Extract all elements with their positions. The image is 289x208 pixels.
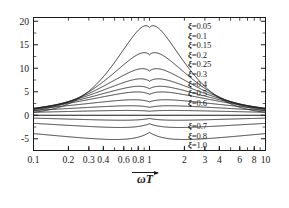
x-tick-label: 2 — [182, 154, 187, 165]
y-tick-label: 15 — [19, 39, 29, 50]
legend-value: =0.8 — [192, 131, 207, 141]
x-tick-label: 6 — [237, 154, 242, 165]
curve-1.0 — [34, 132, 266, 139]
legend-value: =0.15 — [192, 40, 211, 50]
curve-0.05 — [34, 26, 266, 112]
x-tick-label: 0.6 — [118, 154, 130, 165]
legend-value: =1.0 — [192, 140, 207, 150]
legend-lower-item: ξ=1.0 — [188, 141, 207, 151]
y-tick-label: 10 — [19, 63, 29, 74]
y-tick-label: 5 — [24, 86, 29, 97]
legend-value: =0.25 — [192, 59, 211, 69]
x-axis-title: ωT — [105, 172, 185, 187]
curve-0.6 — [34, 110, 266, 112]
curve-0.5 — [34, 106, 266, 111]
y-tick-label: 20 — [19, 16, 29, 27]
vector-arrow-icon — [132, 172, 158, 173]
y-tick-label: 0 — [24, 110, 29, 121]
x-axis-title-text: ωT — [137, 172, 153, 186]
figure: 0.10.20.30.40.60.812346810-505101520 ωT … — [0, 0, 289, 208]
x-tick-label: 3 — [202, 154, 207, 165]
legend-value: =0.5 — [192, 88, 207, 98]
x-tick-label: 1 — [147, 154, 152, 165]
y-tick-label: -5 — [21, 133, 29, 144]
legend-lower: ξ=0.7ξ=0.8ξ=1.0 — [188, 122, 207, 151]
x-tick-label: 10 — [261, 154, 271, 165]
curve-0.7 — [34, 118, 266, 120]
x-tick-label: 0.8 — [132, 154, 144, 165]
plot-frame — [34, 18, 266, 151]
x-tick-label: 0.4 — [97, 154, 109, 165]
x-tick-label: 0.1 — [28, 154, 40, 165]
x-tick-label: 0.3 — [83, 154, 95, 165]
legend-value: =0.2 — [192, 50, 207, 60]
x-tick-label: 4 — [217, 154, 222, 165]
legend-upper: ξ=0.05ξ=0.1ξ=0.15ξ=0.2ξ=0.25ξ=0.3ξ=0.4ξ=… — [188, 22, 211, 108]
curve-0.8 — [34, 123, 266, 127]
curve-0.25 — [34, 86, 266, 108]
legend-value: =0.1 — [192, 31, 207, 41]
legend-value: =0.05 — [192, 21, 211, 31]
legend-value: =0.4 — [192, 79, 207, 89]
legend-value: =0.6 — [192, 98, 207, 108]
legend-value: =0.7 — [192, 121, 207, 131]
legend-value: =0.3 — [192, 69, 207, 79]
legend-upper-item: ξ=0.6 — [188, 99, 211, 109]
x-tick-label: 0.2 — [62, 154, 74, 165]
x-tick-label: 8 — [252, 154, 257, 165]
